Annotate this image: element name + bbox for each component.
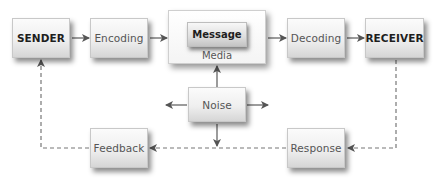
dashed-receiver-response xyxy=(348,60,396,148)
sender-node: SENDER xyxy=(12,18,70,58)
dashed-feedback-sender xyxy=(41,60,89,148)
message-node: Message xyxy=(187,22,247,47)
media-node: Message Media xyxy=(168,10,266,64)
response-node: Response xyxy=(287,128,345,168)
media-label: Media xyxy=(169,50,265,61)
noise-node: Noise xyxy=(188,87,246,122)
feedback-node: Feedback xyxy=(90,128,148,168)
encoding-node: Encoding xyxy=(90,18,148,58)
decoding-node: Decoding xyxy=(287,18,345,58)
receiver-node: RECEIVER xyxy=(365,18,424,58)
